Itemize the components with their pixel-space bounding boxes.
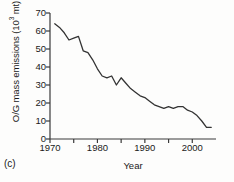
figure-panel-c: O/G mass emissions (103 mt) 706050403020…	[0, 0, 234, 182]
x-axis-ticks	[50, 139, 192, 143]
data-series-line	[55, 24, 212, 128]
axis-lines	[50, 13, 216, 139]
plot-area	[0, 0, 234, 182]
